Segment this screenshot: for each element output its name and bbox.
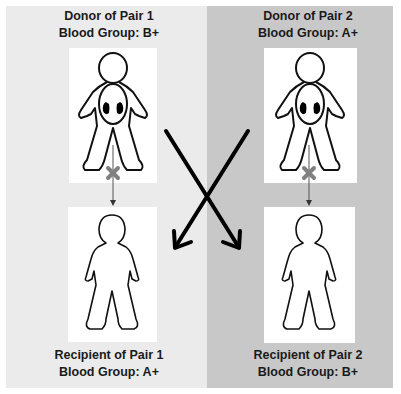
person-outline-icon [264, 207, 355, 343]
donor-2-title: Donor of Pair 2 [213, 8, 401, 25]
recipient-2-blood-group: Blood Group: B+ [213, 364, 401, 381]
donor-1-card [69, 48, 157, 183]
recipient-1-label: Recipient of Pair 1 Blood Group: A+ [14, 347, 204, 381]
donor-1-blood-group: Blood Group: B+ [14, 25, 204, 42]
donor-1-title: Donor of Pair 1 [14, 8, 204, 25]
recipient-2-label: Recipient of Pair 2 Blood Group: B+ [213, 347, 401, 381]
person-with-kidneys-icon [69, 48, 157, 183]
person-outline-icon [68, 207, 157, 342]
recipient-2-title: Recipient of Pair 2 [213, 347, 401, 364]
donor-2-label: Donor of Pair 2 Blood Group: A+ [213, 8, 401, 42]
recipient-1-title: Recipient of Pair 1 [14, 347, 204, 364]
donor-2-card [264, 48, 357, 183]
donor-1-label: Donor of Pair 1 Blood Group: B+ [14, 8, 204, 42]
donor-2-blood-group: Blood Group: A+ [213, 25, 401, 42]
recipient-1-card [68, 207, 157, 342]
person-with-kidneys-icon [264, 48, 357, 183]
recipient-1-blood-group: Blood Group: A+ [14, 364, 204, 381]
recipient-2-card [264, 207, 355, 343]
